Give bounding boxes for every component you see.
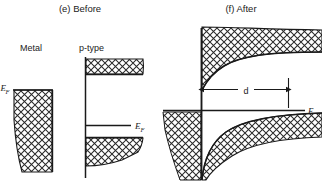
metal-label: Metal bbox=[20, 43, 42, 53]
depletion-width-label: d bbox=[243, 86, 248, 96]
band-diagram-svg: (e) Before Metal p-type E F bbox=[0, 0, 322, 182]
panel-before-caption: (e) Before bbox=[59, 3, 101, 14]
conduction-band-fill-before bbox=[86, 59, 144, 74]
figure-root: (e) Before Metal p-type E F bbox=[0, 0, 322, 182]
metal-electron-sea-before bbox=[13, 90, 53, 172]
panel-after-caption: (f) After bbox=[225, 3, 256, 14]
ptype-label: p-type bbox=[79, 43, 104, 53]
metal-fill-before bbox=[14, 90, 52, 172]
conduction-band-before bbox=[86, 59, 144, 75]
